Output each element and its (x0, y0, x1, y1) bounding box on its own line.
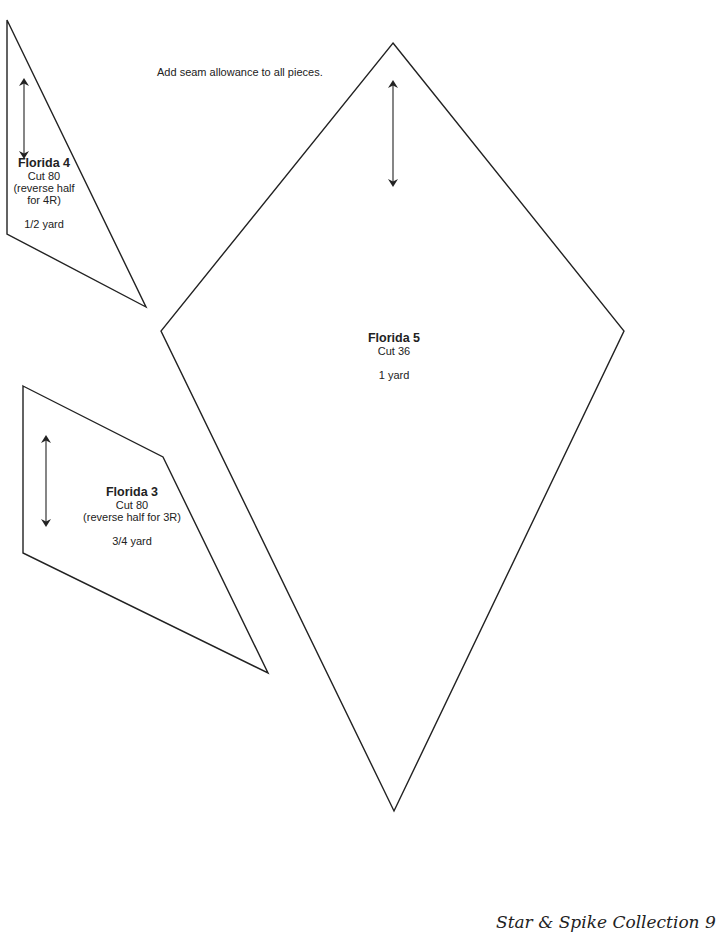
piece-title: Florida 5 (344, 331, 444, 345)
piece-yardage: 1 yard (344, 369, 444, 381)
piece-yardage: 3/4 yard (66, 535, 198, 547)
piece-reverse-note: (reverse half for 3R) (66, 511, 198, 523)
piece-title: Florida 4 (4, 156, 84, 170)
seam-allowance-note: Add seam allowance to all pieces. (157, 66, 323, 78)
piece-reverse-note: (reverse half (4, 182, 84, 194)
florida-5-label: Florida 5 Cut 36 1 yard (344, 331, 444, 381)
piece-reverse-note-cont: for 4R) (4, 194, 84, 206)
piece-yardage: 1/2 yard (4, 218, 84, 230)
page-footer: Star & Spike Collection 9 (496, 912, 716, 932)
piece-cut-count: Cut 80 (4, 170, 84, 182)
piece-cut-count: Cut 36 (344, 345, 444, 357)
piece-title: Florida 3 (66, 485, 198, 499)
florida-3-label: Florida 3 Cut 80 (reverse half for 3R) 3… (66, 485, 198, 547)
piece-cut-count: Cut 80 (66, 499, 198, 511)
florida-4-label: Florida 4 Cut 80 (reverse half for 4R) 1… (4, 156, 84, 230)
